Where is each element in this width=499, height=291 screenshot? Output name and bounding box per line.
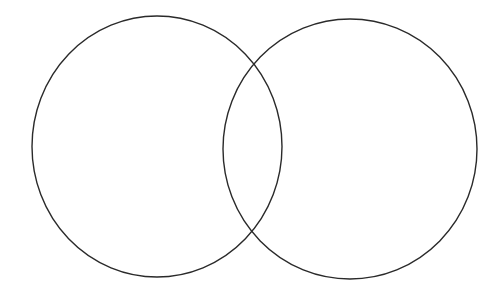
left-circle (32, 16, 282, 277)
venn-diagram (0, 0, 499, 291)
venn-diagram-canvas (0, 0, 499, 291)
right-circle (223, 19, 477, 279)
